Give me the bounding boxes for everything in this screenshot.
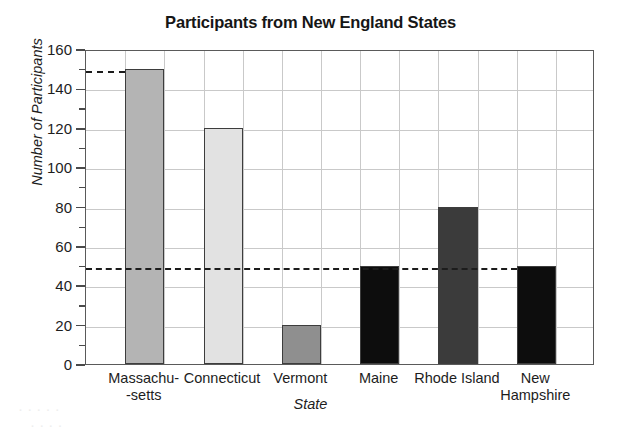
x-tick-label-line2: Hampshire <box>475 387 595 404</box>
y-tick-major-20 <box>76 325 85 327</box>
y-tick-major-120 <box>76 128 85 130</box>
dashed-reference-50 <box>86 268 517 270</box>
y-tick-label-0: 0 <box>40 357 72 372</box>
y-tick-label-120: 120 <box>40 121 72 136</box>
bar-1 <box>204 128 243 364</box>
y-tick-major-80 <box>76 207 85 209</box>
x-tick-label-line1: New <box>521 370 550 386</box>
y-tick-label-20: 20 <box>40 318 72 333</box>
x-tick-label-line2: -setts <box>84 387 204 404</box>
bar-chart: Participants from New England States Num… <box>0 0 621 428</box>
y-tick-label-160: 160 <box>40 42 72 57</box>
y-tick-label-100: 100 <box>40 160 72 175</box>
bar-5 <box>517 266 556 364</box>
dashed-reference-150 <box>86 71 125 73</box>
gridline-v-6 <box>321 51 322 364</box>
bar-0 <box>125 69 164 364</box>
y-tick-major-100 <box>76 167 85 169</box>
scan-bleed-row2: · · · · <box>30 416 62 428</box>
plot-area <box>85 50 594 365</box>
y-tick-label-80: 80 <box>40 200 72 215</box>
y-tick-label-60: 60 <box>40 239 72 254</box>
y-tick-label-140: 140 <box>40 81 72 96</box>
gridline-v-2 <box>164 51 165 364</box>
y-tick-label-40: 40 <box>40 278 72 293</box>
gridline-v-12 <box>556 51 557 364</box>
gridline-v-5 <box>282 51 283 364</box>
x-tick-label-line1: Maine <box>359 370 399 386</box>
chart-title: Participants from New England States <box>0 13 621 32</box>
bar-3 <box>360 266 399 364</box>
x-tick-label-5: NewHampshire <box>475 370 595 404</box>
gridline-v-4 <box>243 51 244 364</box>
gridline-v-8 <box>399 51 400 364</box>
y-tick-major-0 <box>76 364 85 366</box>
y-tick-major-40 <box>76 285 85 287</box>
bar-4 <box>438 207 477 365</box>
bar-2 <box>282 325 321 364</box>
y-tick-major-140 <box>76 89 85 91</box>
y-tick-major-160 <box>76 49 85 51</box>
y-tick-major-60 <box>76 246 85 248</box>
gridline-v-10 <box>478 51 479 364</box>
